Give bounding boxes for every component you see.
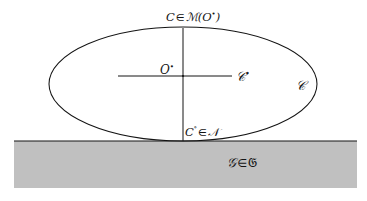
label-contact-point-symbol: 𝒞 bbox=[236, 69, 245, 84]
label-origin: O• bbox=[160, 63, 174, 76]
label-curve-name-symbol: 𝒞 bbox=[296, 78, 305, 93]
label-ground-operator: ∈ bbox=[236, 156, 248, 170]
label-ground-lhs: 𝒢 bbox=[227, 155, 236, 170]
label-curve-top-operator: ∈ bbox=[175, 12, 186, 23]
label-curve-in-manifold: C∈ℳ(O•) bbox=[166, 11, 220, 23]
label-curve-bottom-operator: ∈ bbox=[197, 127, 208, 138]
label-ground-rhs: 𝔊 bbox=[248, 155, 257, 170]
ground-region-fill bbox=[14, 141, 357, 188]
label-curve-in-neighborhood: C°∈𝒩 bbox=[185, 126, 219, 138]
label-curve-top-paren-close: ) bbox=[216, 10, 221, 24]
label-curve-bottom-lhs: C bbox=[185, 125, 194, 139]
center-point-marker bbox=[182, 75, 184, 77]
label-contact-point-superscript: • bbox=[245, 69, 250, 78]
label-ground-region: 𝒢∈𝔊 bbox=[227, 156, 257, 169]
label-origin-symbol: O bbox=[160, 63, 170, 77]
label-curve-top-lhs: C bbox=[166, 10, 175, 24]
label-origin-superscript: • bbox=[170, 62, 174, 71]
label-curve-bottom-rhs: 𝒩 bbox=[208, 125, 219, 139]
label-curve-top-set: ℳ bbox=[186, 10, 198, 24]
label-curve-name: 𝒞 bbox=[296, 79, 305, 92]
label-curve-top-arg: O bbox=[202, 10, 211, 24]
diagram-canvas: C∈ℳ(O•) O• 𝒞• 𝒞 C°∈𝒩 𝒢∈𝔊 bbox=[0, 0, 367, 201]
diagram-vector-layer bbox=[0, 0, 367, 201]
label-contact-point: 𝒞• bbox=[236, 70, 250, 83]
